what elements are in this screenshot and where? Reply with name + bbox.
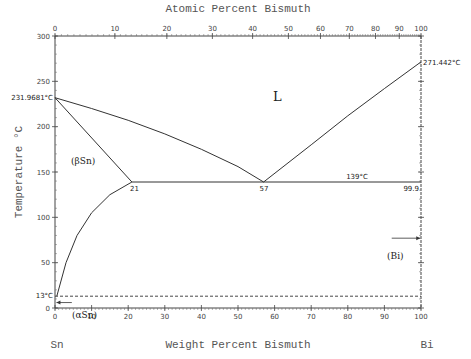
alpha-sn-label: (αSn)	[72, 310, 97, 320]
liquid-phase-label: L	[273, 89, 282, 104]
svg-text:50: 50	[284, 25, 293, 33]
left-component-label: Sn	[50, 339, 63, 351]
svg-text:20: 20	[162, 25, 171, 33]
svg-text:30: 30	[160, 313, 169, 321]
bi-phase-label: (Bi)	[387, 251, 404, 261]
top-axis-title: Atomic Percent Bismuth	[165, 3, 310, 15]
eutectic-left-comp: 21	[130, 185, 139, 193]
boundary-1	[264, 62, 421, 182]
phase-diagram: 0501001502002503000102030405060708090100…	[0, 0, 471, 359]
svg-text:80: 80	[371, 25, 380, 33]
boundary-3	[57, 182, 132, 296]
transition-temp: 13°C	[36, 292, 53, 300]
beta-sn-label: (βSn)	[71, 156, 95, 166]
svg-text:90: 90	[395, 25, 404, 33]
right-component-label: Bi	[420, 339, 434, 351]
svg-text:0: 0	[53, 25, 57, 33]
svg-text:30: 30	[208, 25, 217, 33]
svg-text:70: 70	[307, 313, 316, 321]
svg-text:0: 0	[53, 313, 57, 321]
svg-text:60: 60	[270, 313, 279, 321]
svg-text:90: 90	[380, 313, 389, 321]
svg-text:50: 50	[234, 313, 243, 321]
y-axis-title: Temperature °C	[13, 125, 25, 218]
svg-text:50: 50	[41, 259, 50, 267]
svg-text:60: 60	[316, 25, 325, 33]
bi-melting-point: 271.442°C	[423, 59, 460, 67]
eutectic-comp: 57	[260, 185, 269, 193]
svg-text:70: 70	[345, 25, 354, 33]
svg-text:10: 10	[110, 25, 119, 33]
boundary-2	[55, 98, 132, 182]
eutectic-temp: 139°C	[346, 173, 368, 181]
boundary-0	[55, 98, 264, 182]
svg-text:100: 100	[414, 313, 427, 321]
svg-text:100: 100	[37, 214, 50, 222]
eutectic-right-comp: 99.9	[403, 185, 419, 193]
svg-text:80: 80	[343, 313, 352, 321]
svg-text:0: 0	[46, 305, 50, 313]
sn-melting-point: 231.9681°C	[11, 94, 53, 102]
svg-text:200: 200	[37, 123, 50, 131]
svg-text:20: 20	[124, 313, 133, 321]
phase-boundaries	[55, 62, 421, 305]
svg-text:40: 40	[248, 25, 257, 33]
svg-text:40: 40	[197, 313, 206, 321]
svg-text:100: 100	[414, 25, 427, 33]
svg-text:150: 150	[37, 169, 50, 177]
svg-text:300: 300	[37, 33, 50, 41]
svg-text:250: 250	[37, 78, 50, 86]
axes: 0501001502002503000102030405060708090100…	[37, 25, 428, 321]
bottom-axis-title: Weight Percent Bismuth	[165, 339, 310, 351]
